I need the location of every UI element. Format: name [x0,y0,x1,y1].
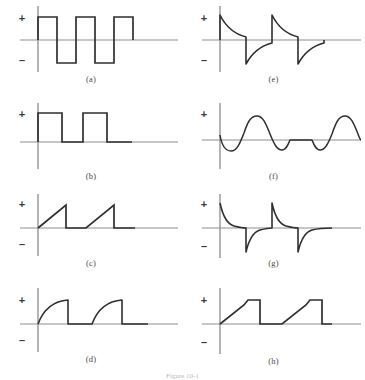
waveform-panel-g: + – (g) [182,190,365,282]
waveform-trace [38,205,135,228]
waveform-panel-f: + (f) [182,95,365,190]
waveform-panel-e: + – (e) [182,0,365,95]
panel-caption-a: (a) [0,74,182,84]
plus-sign-label: + [201,198,207,210]
panel-caption-d: (d) [0,354,182,364]
waveform-svg-d: + – [0,282,182,380]
minus-sign-label: – [19,54,25,66]
waveform-figure-sheet: + – (a) + – (e) + (b [0,0,365,380]
plus-sign-label: + [201,294,207,306]
plus-sign-label: + [19,108,25,120]
waveform-trace [38,300,148,324]
waveform-trace [38,113,132,142]
panel-caption-b: (b) [0,171,182,181]
plus-sign-label: + [201,108,207,120]
panel-caption-g: (g) [182,258,365,268]
waveform-panel-grid: + – (a) + – (e) + (b [0,0,365,380]
panel-caption-h: (h) [182,356,365,366]
plus-sign-label: + [19,294,25,306]
waveform-panel-h: + – (h) [182,282,365,380]
panel-caption-c: (c) [0,258,182,268]
panel-caption-e: (e) [182,74,365,84]
minus-sign-label: – [201,54,207,66]
waveform-svg-c: + – [0,190,182,282]
minus-sign-label: – [19,334,25,346]
waveform-panel-d: + – (d) [0,282,182,380]
waveform-trace [220,116,361,151]
plus-sign-label: + [19,12,25,24]
panel-caption-f: (f) [182,171,365,181]
figure-bottom-caption: Figure 10-1 [0,372,365,380]
waveform-panel-b: + (b) [0,95,182,190]
waveform-trace [220,300,332,324]
waveform-panel-c: + – (c) [0,190,182,282]
minus-sign-label: – [201,336,207,348]
plus-sign-label: + [201,12,207,24]
plus-sign-label: + [19,198,25,210]
waveform-svg-g: + – [182,190,365,282]
waveform-panel-a: + – (a) [0,0,182,95]
minus-sign-label: – [201,240,207,252]
minus-sign-label: – [19,238,25,250]
